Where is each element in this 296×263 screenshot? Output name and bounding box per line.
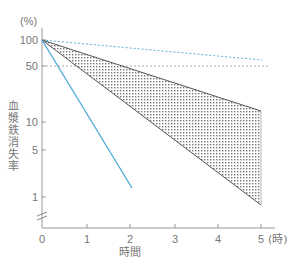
y-tick-10: 10 bbox=[26, 116, 38, 128]
y-axis-label: 血 漿 鉄 消 失 率 bbox=[8, 99, 19, 173]
svg-text:鉄: 鉄 bbox=[8, 123, 19, 137]
y-unit-label: (%) bbox=[20, 15, 37, 27]
svg-text:率: 率 bbox=[8, 159, 19, 173]
y-ticks bbox=[42, 40, 46, 197]
y-tick-100: 100 bbox=[20, 34, 38, 46]
svg-text:血: 血 bbox=[8, 99, 19, 113]
x-unit-label: (時) bbox=[268, 233, 288, 246]
x-tick-5: 5 bbox=[258, 233, 264, 245]
y-tick-50: 50 bbox=[26, 60, 38, 72]
x-tick-4: 4 bbox=[215, 233, 221, 245]
x-tick-3: 3 bbox=[172, 233, 178, 245]
x-axis-label: 時間 bbox=[119, 246, 141, 259]
x-tick-0: 0 bbox=[39, 233, 45, 245]
x-tick-1: 1 bbox=[84, 233, 90, 245]
svg-text:消: 消 bbox=[8, 135, 19, 149]
y-tick-labels: 100 50 10 5 1 bbox=[20, 34, 38, 203]
y-tick-1: 1 bbox=[32, 191, 38, 203]
x-ticks bbox=[87, 224, 261, 228]
x-tick-labels: 0 1 2 3 4 5 bbox=[39, 233, 264, 245]
svg-text:漿: 漿 bbox=[8, 111, 19, 125]
plasma-iron-clearance-chart: (%) 100 50 10 5 1 血 漿 鉄 消 失 率 0 bbox=[0, 0, 296, 263]
y-tick-5: 5 bbox=[32, 144, 38, 156]
x-tick-2: 2 bbox=[127, 233, 133, 245]
